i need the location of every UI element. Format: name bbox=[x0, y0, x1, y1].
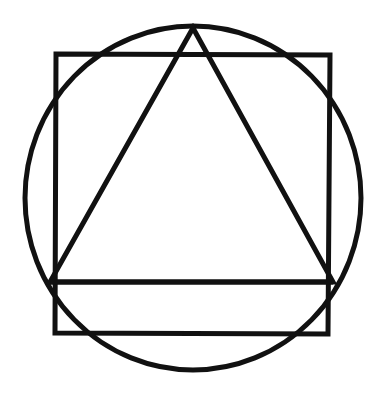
triangle bbox=[50, 28, 333, 282]
geometric-diagram bbox=[0, 0, 385, 394]
circle bbox=[25, 26, 361, 370]
diagram-svg bbox=[0, 0, 385, 394]
square bbox=[55, 54, 330, 334]
